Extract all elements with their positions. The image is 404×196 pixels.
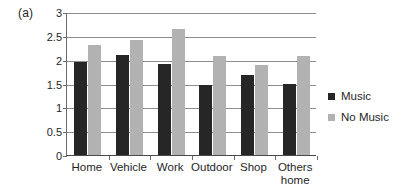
y-axis-tick-label: 3 (56, 8, 62, 19)
bar (241, 75, 254, 155)
x-axis-tick-label: Outdoor (191, 161, 233, 174)
x-axis-tick (275, 156, 276, 160)
y-axis-tick (63, 156, 67, 157)
plot-area (66, 13, 316, 156)
x-axis-tick (109, 156, 110, 160)
bar (213, 56, 226, 155)
y-axis-tick-label: 0.5 (47, 127, 62, 138)
bar-group (150, 12, 192, 155)
bar-group (234, 12, 276, 155)
legend-label-music: Music (341, 90, 371, 102)
legend-item-no-music: No Music (328, 109, 389, 125)
y-axis-tick-label: 1.5 (47, 79, 62, 90)
y-axis-tick-label: 2 (56, 55, 62, 66)
bar (283, 84, 296, 155)
bar (116, 55, 129, 155)
bar (158, 64, 171, 155)
bar-group (192, 12, 234, 155)
x-axis-tick-label: Home (66, 161, 108, 174)
y-axis-tick-label: 1 (56, 103, 62, 114)
panel-label: (a) (18, 6, 33, 20)
x-axis-tick (317, 156, 318, 160)
bar (172, 29, 185, 155)
bar (199, 85, 212, 155)
legend-label-no-music: No Music (341, 111, 389, 123)
x-axis-tick-label: Shop (233, 161, 275, 174)
x-axis-tick (192, 156, 193, 160)
y-axis-tick-label: 2.5 (47, 31, 62, 42)
x-axis-tick-label: Others home (274, 161, 316, 187)
bar-group (67, 12, 109, 155)
x-axis-tick (234, 156, 235, 160)
x-axis-tick-label: Vehicle (108, 161, 150, 174)
bar (297, 56, 310, 155)
y-axis-tick-label: 0 (56, 151, 62, 162)
x-axis-tick-label: Work (149, 161, 191, 174)
legend-swatch-no-music-icon (328, 114, 335, 121)
bar-group (275, 12, 317, 155)
bar (88, 45, 101, 155)
legend-swatch-music-icon (328, 93, 335, 100)
bar-group (109, 12, 151, 155)
x-axis-tick (150, 156, 151, 160)
bar (255, 65, 268, 155)
legend-item-music: Music (328, 88, 389, 104)
bar (130, 40, 143, 155)
figure: (a) 32.521.510.50 HomeVehicleWorkOutdoor… (0, 0, 404, 196)
chart-legend: Music No Music (328, 88, 389, 130)
bar (74, 62, 87, 155)
